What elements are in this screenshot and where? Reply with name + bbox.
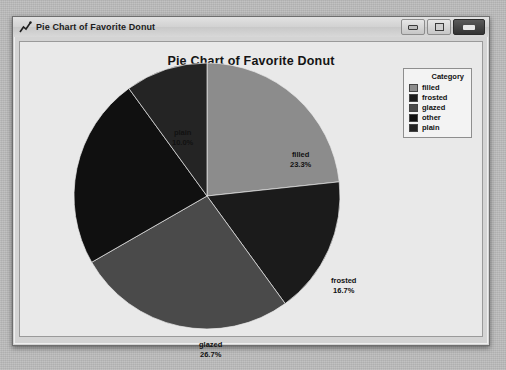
- line-chart-icon: [19, 21, 32, 34]
- maximize-button[interactable]: [427, 19, 451, 35]
- pie-label-filled: filled 23.3%: [290, 150, 311, 169]
- close-button[interactable]: [453, 19, 485, 35]
- legend-title: Category: [409, 72, 465, 81]
- legend-item-filled: filled: [409, 83, 465, 92]
- legend: Category filledfrostedglazedotherplain: [403, 68, 472, 138]
- window-title: Pie Chart of Favorite Donut: [36, 22, 401, 32]
- legend-item-glazed: glazed: [409, 103, 465, 112]
- application-window: Pie Chart of Favorite Donut Pie Chart of…: [12, 16, 490, 346]
- close-icon: [463, 25, 475, 30]
- legend-swatch-filled: [409, 84, 418, 92]
- minimize-icon: [408, 25, 418, 30]
- legend-item-frosted: frosted: [409, 93, 465, 102]
- legend-item-plain: plain: [409, 123, 465, 132]
- legend-rows: filledfrostedglazedotherplain: [409, 83, 465, 132]
- legend-swatch-plain: [409, 124, 418, 132]
- window-client-area: Pie Chart of Favorite Donut plain 10.0% …: [13, 37, 489, 345]
- chart-panel: Pie Chart of Favorite Donut plain 10.0% …: [19, 41, 483, 337]
- legend-label-glazed: glazed: [422, 103, 445, 112]
- legend-label-filled: filled: [422, 83, 440, 92]
- pie-slice-filled: [207, 63, 339, 196]
- legend-label-plain: plain: [422, 123, 440, 132]
- pie-label-glazed: glazed 26.7%: [199, 340, 222, 359]
- window-controls: [401, 19, 485, 35]
- legend-swatch-other: [409, 114, 418, 122]
- legend-label-frosted: frosted: [422, 93, 447, 102]
- pie-label-plain: plain 10.0%: [172, 128, 193, 147]
- legend-label-other: other: [422, 113, 441, 122]
- legend-swatch-glazed: [409, 104, 418, 112]
- legend-swatch-frosted: [409, 94, 418, 102]
- pie-slice-group: [74, 63, 340, 329]
- title-bar[interactable]: Pie Chart of Favorite Donut: [13, 17, 489, 37]
- legend-item-other: other: [409, 113, 465, 122]
- maximize-icon: [435, 23, 444, 31]
- pie-svg: [42, 60, 372, 332]
- pie-label-frosted: frosted 16.7%: [331, 276, 356, 295]
- minimize-button[interactable]: [401, 19, 425, 35]
- pie-label-other: other 23.3%: [105, 212, 126, 231]
